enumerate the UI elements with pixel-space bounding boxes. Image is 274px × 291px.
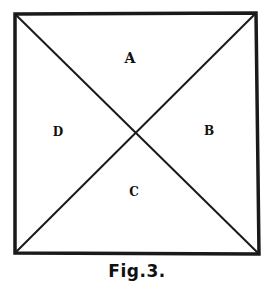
- region-label-top: A: [125, 50, 136, 66]
- region-label-right: B: [204, 124, 214, 138]
- region-label-bottom: C: [129, 185, 139, 199]
- region-label-left: D: [53, 125, 63, 139]
- figure-caption: Fig.3.: [108, 261, 165, 281]
- square-diagram: [0, 0, 274, 291]
